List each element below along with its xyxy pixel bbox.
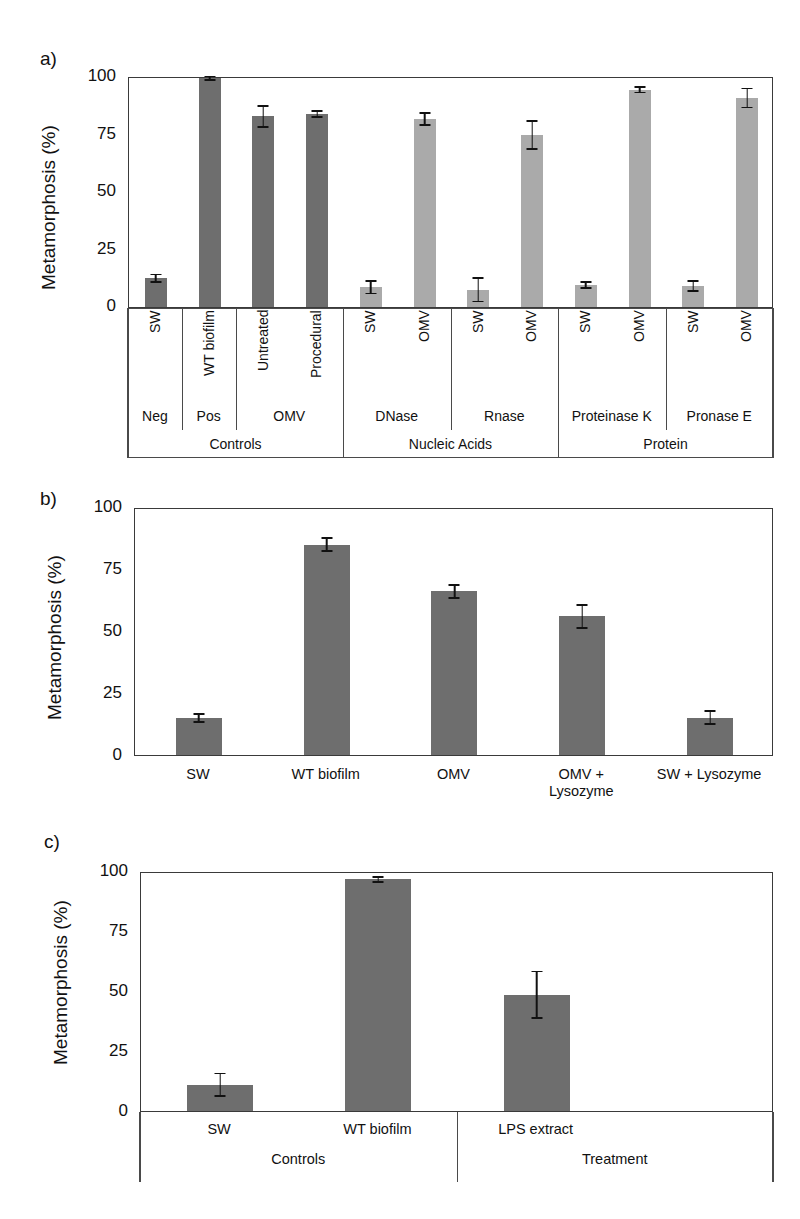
error-bar xyxy=(419,112,430,126)
panel-c-ytick-50: 50 xyxy=(84,981,128,1001)
error-bar xyxy=(705,710,716,725)
panel-c-ytick-0: 0 xyxy=(84,1101,128,1121)
error-bar xyxy=(634,86,645,93)
tick-label: LPS extract xyxy=(457,1116,615,1142)
error-bar xyxy=(373,876,384,883)
bar-group xyxy=(613,78,667,307)
bar-group xyxy=(505,78,559,307)
bar xyxy=(306,114,328,307)
panel-b-plot-area xyxy=(134,508,773,756)
panel-c-ytick-75: 75 xyxy=(84,921,128,941)
bar-group xyxy=(646,509,774,755)
panel-a-ytick-0: 0 xyxy=(72,296,116,316)
panel-b-category-labels: SWWT biofilmOMVOMV +LysozymeSW + Lysozym… xyxy=(134,762,773,810)
grid-edge xyxy=(139,1112,140,1182)
panel-a-bars xyxy=(129,78,772,307)
group-label-level1: OMV xyxy=(236,402,344,430)
bar xyxy=(736,98,758,307)
panel-a-category-labels: SWWT biofilmUntreatedProceduralSWOMVSWOM… xyxy=(128,308,773,458)
bar xyxy=(345,879,411,1111)
bar-group xyxy=(559,78,613,307)
error-bar xyxy=(688,280,699,292)
panel-a-letter: a) xyxy=(40,48,57,70)
bar xyxy=(176,718,222,755)
tick-label-vertical: OMV xyxy=(504,310,558,402)
group-label-level2: Nucleic Acids xyxy=(343,430,558,458)
bar xyxy=(199,78,221,307)
panel-c: c) Metamorphosis (%) 100 75 50 25 0 SWWT… xyxy=(0,815,800,1219)
tick-label: OMV xyxy=(390,766,518,783)
error-bar xyxy=(193,713,204,723)
group-label-level1: Proteinase K xyxy=(558,402,666,430)
bar xyxy=(559,616,605,755)
panel-a-ytick-75: 75 xyxy=(72,124,116,144)
panel-c-letter: c) xyxy=(44,831,60,853)
bar xyxy=(252,116,274,307)
group-label-level1: Rnase xyxy=(451,402,559,430)
group-label-level1: DNase xyxy=(343,402,451,430)
error-bar xyxy=(215,1073,226,1097)
group-label-level1: Controls xyxy=(140,1146,457,1172)
tick-label-vertical: Procedural xyxy=(289,310,343,402)
bar xyxy=(629,90,651,307)
tick-label: SW + Lysozyme xyxy=(645,766,773,783)
panel-a-ytick-100: 100 xyxy=(72,66,116,86)
tick-label-vertical: OMV xyxy=(612,310,666,402)
error-bar xyxy=(580,281,591,289)
panel-a-ytick-50: 50 xyxy=(72,181,116,201)
error-bar xyxy=(204,76,215,82)
error-bar xyxy=(531,971,542,1019)
panel-b-y-axis-title: Metamorphosis (%) xyxy=(44,555,66,720)
bar-group xyxy=(299,873,457,1111)
bar-group xyxy=(183,78,237,307)
panel-c-plot-area xyxy=(140,872,773,1112)
tick-label: WT biofilm xyxy=(298,1116,456,1142)
bar-group xyxy=(135,509,263,755)
tick-label-vertical: WT biofilm xyxy=(182,310,236,402)
panel-b-ytick-0: 0 xyxy=(78,745,122,765)
group-label-level2: Controls xyxy=(128,430,343,458)
panel-c-category-labels: SWWT biofilmLPS extractControlsTreatment xyxy=(140,1112,773,1194)
bar-group xyxy=(391,509,519,755)
error-bar xyxy=(527,120,538,150)
panel-b-ytick-75: 75 xyxy=(78,559,122,579)
bar-group xyxy=(398,78,452,307)
bar-group xyxy=(344,78,398,307)
panel-a: a) Metamorphosis (%) 100 75 50 25 0 SWWT… xyxy=(0,0,800,470)
bar xyxy=(414,119,436,307)
grid-edge xyxy=(127,308,128,458)
group-label-level2: Protein xyxy=(558,430,773,458)
error-bar xyxy=(742,88,753,109)
bar-group xyxy=(237,78,291,307)
panel-b-ytick-50: 50 xyxy=(78,621,122,641)
panel-c-bars xyxy=(141,873,772,1111)
tick-label: SW xyxy=(134,766,262,783)
bar-group xyxy=(290,78,344,307)
panel-b-bars xyxy=(135,509,772,755)
panel-c-y-axis-title: Metamorphosis (%) xyxy=(50,900,72,1065)
tick-label-vertical: Untreated xyxy=(236,310,290,402)
grid-edge xyxy=(772,308,773,458)
tick-label: WT biofilm xyxy=(262,766,390,783)
group-label-level1: Pronase E xyxy=(666,402,774,430)
error-bar xyxy=(258,105,269,128)
panel-b-letter: b) xyxy=(40,488,57,510)
tick-label-vertical: OMV xyxy=(719,310,773,402)
error-bar xyxy=(365,280,376,294)
bar-group xyxy=(720,78,774,307)
error-bar xyxy=(449,584,460,599)
group-label-level1: Neg xyxy=(128,402,182,430)
panel-a-ytick-25: 25 xyxy=(72,239,116,259)
bar-group xyxy=(518,509,646,755)
panel-c-ytick-100: 100 xyxy=(84,861,128,881)
panel-b-ytick-100: 100 xyxy=(78,497,122,517)
error-bar xyxy=(473,277,484,302)
bar-group xyxy=(667,78,721,307)
tick-label: OMV +Lysozyme xyxy=(517,766,645,800)
panel-b: b) Metamorphosis (%) 100 75 50 25 0 SWWT… xyxy=(0,470,800,815)
bar-group xyxy=(263,509,391,755)
group-label-level1: Treatment xyxy=(457,1146,774,1172)
panel-a-plot-area xyxy=(128,77,773,308)
panel-b-ytick-25: 25 xyxy=(78,683,122,703)
tick-label-vertical: SW xyxy=(666,310,720,402)
